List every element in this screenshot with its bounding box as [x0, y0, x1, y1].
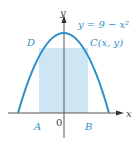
- point-c-label: C(x, y): [90, 37, 123, 48]
- point-d-label: D: [26, 37, 35, 48]
- origin-label: 0: [56, 117, 62, 128]
- x-axis-label: x: [126, 108, 132, 119]
- x-axis-arrow-icon: [116, 111, 124, 116]
- point-b-label: B: [84, 121, 92, 132]
- diagram-canvas: y x y = 9 − x² D C(x, y) A B 0: [0, 0, 135, 144]
- y-axis-label: y: [59, 7, 66, 18]
- parabola-rectangle-diagram: y x y = 9 − x² D C(x, y) A B 0: [0, 0, 135, 144]
- curve-equation: y = 9 − x²: [77, 19, 129, 30]
- point-a-label: A: [33, 121, 41, 132]
